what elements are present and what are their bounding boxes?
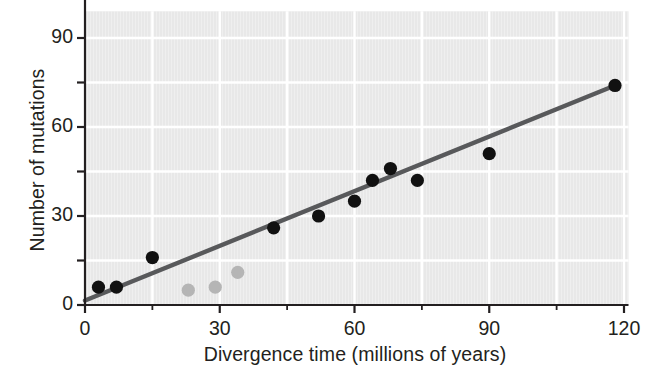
- data-point: [146, 251, 159, 264]
- data-point: [182, 284, 195, 297]
- data-point: [411, 174, 424, 187]
- plot-area: [77, 0, 628, 313]
- data-point: [92, 281, 105, 294]
- scatter-chart-figure: Number of mutations Divergence time (mil…: [0, 0, 650, 374]
- data-point: [384, 162, 397, 175]
- x-axis-tick-label: 60: [325, 317, 385, 340]
- data-point: [110, 281, 123, 294]
- data-point: [312, 209, 325, 222]
- x-axis-tick-label: 90: [459, 317, 519, 340]
- y-axis-tick-label: 90: [13, 25, 73, 48]
- data-point: [348, 195, 361, 208]
- x-axis-tick-label: 120: [594, 317, 650, 340]
- x-axis-tick-label: 30: [190, 317, 250, 340]
- data-point: [366, 174, 379, 187]
- y-axis-tick-label: 30: [13, 203, 73, 226]
- x-axis-tick-label: 0: [55, 317, 115, 340]
- data-point: [483, 147, 496, 160]
- y-axis-tick-label: 0: [13, 292, 73, 315]
- y-axis-tick-label: 60: [13, 114, 73, 137]
- data-point: [608, 79, 621, 92]
- data-point: [209, 281, 222, 294]
- data-point: [231, 266, 244, 279]
- data-point: [267, 221, 280, 234]
